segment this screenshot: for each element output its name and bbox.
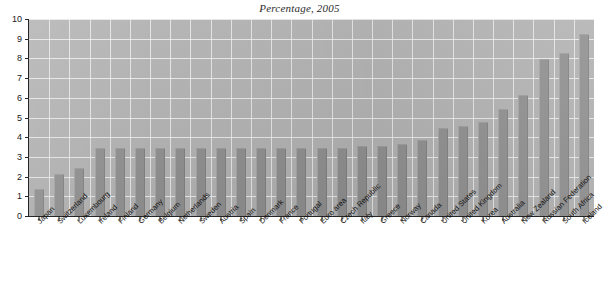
scan-artifact-text: [392, 269, 592, 279]
x-axis-labels: JapanSwitzerlandLuxembourgIrelandFinland…: [28, 0, 593, 284]
x-axis-label: Canada: [419, 201, 443, 225]
y-axis-tick-label: 7: [2, 74, 22, 83]
x-axis-label: Korea: [480, 206, 500, 226]
y-axis-tick-label: 9: [2, 35, 22, 44]
y-axis-tick-label: 5: [2, 114, 22, 123]
y-axis-tick-label: 0: [2, 212, 22, 221]
y-axis-tick-label: 4: [2, 133, 22, 142]
y-axis-tick-label: 10: [2, 15, 22, 24]
y-axis-tick-label: 1: [2, 192, 22, 201]
y-axis-tick-label: 8: [2, 54, 22, 63]
y-axis-tick-label: 2: [2, 173, 22, 182]
x-axis-label: Greece: [379, 202, 402, 225]
x-axis-label: Spain: [238, 206, 257, 225]
y-axis-tick-label: 3: [2, 153, 22, 162]
x-axis-label: Finland: [117, 202, 140, 225]
x-axis-label: Norway: [399, 202, 423, 226]
y-axis-tick-label: 6: [2, 94, 22, 103]
x-axis-label: Japan: [36, 205, 56, 225]
x-axis-label: Italy: [359, 210, 375, 226]
